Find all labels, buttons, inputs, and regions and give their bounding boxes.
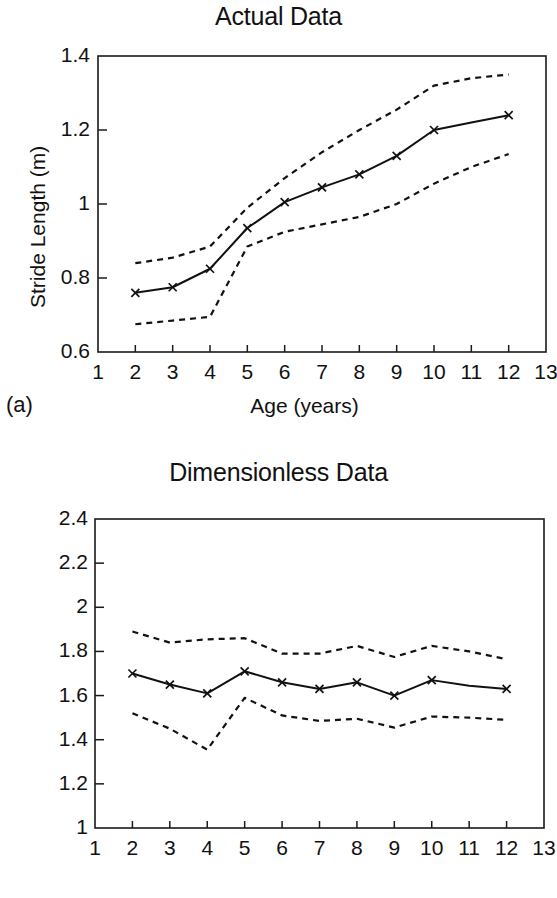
series-line-upper-band	[135, 75, 508, 264]
y-tick-label: 1.6	[28, 683, 88, 707]
data-point-marker	[243, 224, 251, 232]
x-tick-label: 13	[521, 360, 557, 384]
series-line-lower-band	[132, 698, 506, 750]
data-point-marker	[393, 152, 401, 160]
y-tick-label: 1.8	[28, 638, 88, 662]
y-tick-label: 1.2	[28, 771, 88, 795]
y-tick-label: 2.4	[28, 506, 88, 530]
y-tick-label: 0.6	[30, 339, 90, 363]
y-tick-label: 1	[30, 191, 90, 215]
plot-frame	[98, 56, 546, 352]
series-line-lower-band	[135, 154, 508, 324]
y-tick-label: 1.2	[30, 117, 90, 141]
y-tick-label: 2	[28, 594, 88, 618]
panel-b-dimensionless-data: Dimensionless Data Stride Length Age (ye…	[0, 450, 557, 898]
data-point-marker	[206, 265, 214, 273]
x-tick-label: 13	[519, 836, 557, 860]
y-tick-label: 0.8	[30, 265, 90, 289]
data-point-marker	[281, 198, 289, 206]
y-tick-label: 1.4	[28, 727, 88, 751]
series-line-mean	[132, 671, 506, 695]
panel-a-actual-data: Actual Data Stride Length (m) Age (years…	[0, 0, 557, 450]
y-tick-label: 1.4	[30, 43, 90, 67]
y-tick-label: 2.2	[28, 550, 88, 574]
plot-frame	[95, 519, 544, 828]
series-line-upper-band	[132, 632, 506, 660]
series-line-mean	[135, 115, 508, 293]
y-tick-label: 1	[28, 815, 88, 839]
